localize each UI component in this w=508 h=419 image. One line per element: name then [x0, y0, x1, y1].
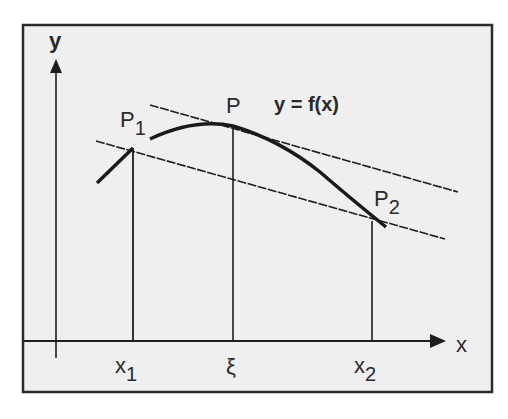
- function-label: y = f(x): [274, 93, 339, 115]
- diagram-frame: [23, 25, 492, 392]
- x-axis-label: x: [456, 332, 467, 357]
- y-axis-label: y: [49, 28, 62, 53]
- p-label: P: [226, 93, 241, 118]
- mean-value-theorem-diagram: y x P1 P P2 y = f(x) x1 ξ x2: [0, 0, 508, 419]
- xi-tick-label: ξ: [226, 354, 236, 379]
